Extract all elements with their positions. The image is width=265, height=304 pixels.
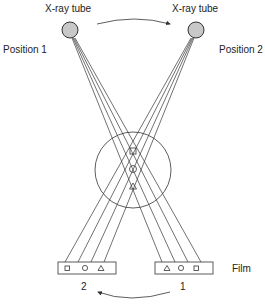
film-movement-arrow bbox=[98, 292, 170, 298]
film-1-number: 1 bbox=[180, 282, 186, 292]
object-square-icon bbox=[130, 148, 136, 154]
film-2-number: 2 bbox=[81, 282, 87, 292]
film-label: Film bbox=[232, 264, 251, 274]
position-1-label: Position 1 bbox=[3, 45, 47, 55]
xray-parallax-diagram: X-ray tube X-ray tube Position 1 Positio… bbox=[0, 0, 265, 304]
position-2-label: Position 2 bbox=[219, 45, 263, 55]
xray-tube-position-2-icon bbox=[188, 22, 204, 38]
film-2 bbox=[58, 262, 116, 274]
beams-position-1 bbox=[72, 38, 201, 262]
beams-position-2 bbox=[65, 38, 194, 262]
film-1 bbox=[155, 262, 213, 274]
tube-movement-arrow bbox=[97, 19, 170, 24]
tube-right-label: X-ray tube bbox=[172, 4, 218, 14]
tube-left-label: X-ray tube bbox=[45, 4, 91, 14]
xray-tube-position-1-icon bbox=[62, 22, 78, 38]
